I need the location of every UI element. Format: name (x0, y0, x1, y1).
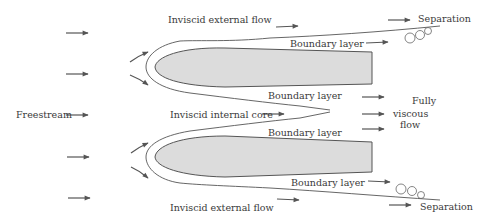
label-inviscid-external-bottom: Inviscid external flow (170, 202, 274, 213)
label-inviscid-internal-core: Inviscid internal core (170, 109, 273, 120)
label-separation-top: Separation (418, 13, 471, 24)
label-inviscid-external-top: Inviscid external flow (168, 14, 272, 25)
label-fully-viscous-3: flow (400, 119, 420, 130)
stagnation-deflection-arrows (130, 52, 148, 178)
separation-vortex-bottom (396, 184, 425, 199)
label-fully-viscous-1: Fully (412, 95, 437, 106)
label-fully-viscous-2: viscous (392, 108, 428, 119)
label-boundary-layer-1: Boundary layer (290, 38, 364, 49)
separation-vortex-top (405, 28, 432, 44)
label-boundary-layer-3: Boundary layer (268, 127, 342, 138)
label-boundary-layer-2: Boundary layer (268, 90, 342, 101)
label-boundary-layer-4: Boundary layer (291, 177, 365, 188)
label-freestream: Freestream (16, 109, 72, 120)
flow-diagram: Inviscid external flow Boundary layer Se… (0, 0, 480, 221)
label-separation-bottom: Separation (420, 201, 473, 212)
